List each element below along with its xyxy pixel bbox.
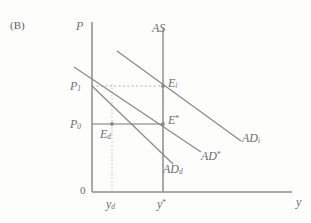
curve-ad-star-sup: * [217,150,221,159]
axis-label-y: y [296,196,301,208]
point-e-d [110,122,114,126]
panel-label: (B) [10,20,25,31]
curve-ad-star-base: AD [201,149,217,163]
point-e-i [161,84,165,88]
tick-label-p0: P0 [70,118,81,131]
equilibrium-label-e-i: Ei [168,77,177,90]
curve-label-as: AS [152,22,165,34]
e-d-sub: d [107,132,111,141]
curve-ad-i-sub: i [258,136,260,145]
tick-label-p1: P1 [70,80,81,93]
tick-yd-sub: d [111,202,115,211]
curve-ad-d-sub: d [179,167,183,176]
e-star-sup: * [175,114,179,123]
tick-p0-sub: 0 [77,122,81,131]
curve-ad-d-base: AD [163,162,179,176]
tick-p1-sub: 1 [77,84,81,93]
economics-diagram: (B) P y 0 P1 P0 yd y* AS ADd AD* ADi Ei … [0,0,311,223]
curve-ad-i-base: AD [242,131,258,145]
curve-ad-star [74,67,201,152]
tick-label-ystar: y* [157,198,166,210]
origin-label: 0 [80,185,86,196]
curve-label-ad-i: ADi [242,132,260,145]
equilibrium-label-e-d: Ed [100,128,111,141]
tick-ystar-sup: * [162,198,166,207]
tick-label-yd: yd [106,198,115,211]
e-i-sub: i [175,81,177,90]
equilibrium-label-e-star: E* [168,114,179,126]
curve-label-ad-star: AD* [201,150,221,162]
point-e-star [161,122,165,126]
axis-label-p: P [76,20,83,32]
curve-label-ad-d: ADd [163,163,183,176]
